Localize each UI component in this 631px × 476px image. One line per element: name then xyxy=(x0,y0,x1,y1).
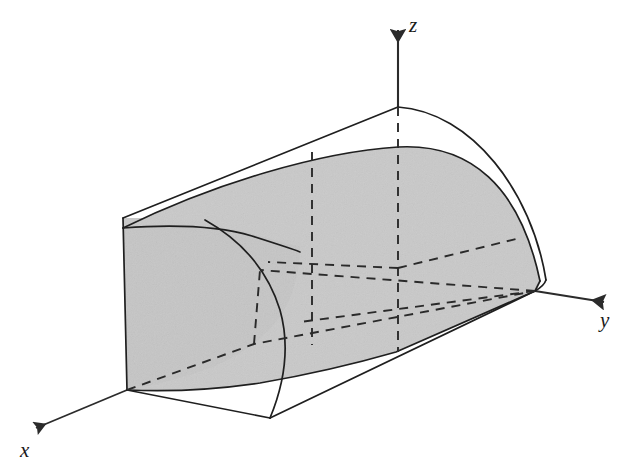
x-axis-label: x xyxy=(19,438,30,462)
y-axis-line xyxy=(535,291,604,302)
z-axis-label: z xyxy=(408,13,417,37)
x-axis-line xyxy=(36,390,127,428)
figure-root: z y x xyxy=(0,0,631,476)
solid-region-diagram: z y x xyxy=(0,0,631,476)
y-axis-label: y xyxy=(598,308,610,332)
